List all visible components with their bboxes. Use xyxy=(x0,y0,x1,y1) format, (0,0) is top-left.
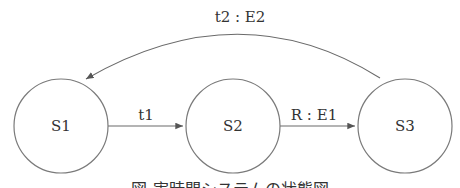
transition-s3-s1 xyxy=(86,34,380,79)
transition-label-t2-e2: t2 : E2 xyxy=(215,8,266,26)
state-label-s3: S3 xyxy=(395,117,415,135)
transition-label-t1: t1 xyxy=(138,106,154,124)
transition-label-r-e1: R : E1 xyxy=(291,106,337,124)
state-label-s1: S1 xyxy=(51,117,71,135)
state-label-s2: S2 xyxy=(223,117,243,135)
figure-caption: 図 実時間システムの状態図 xyxy=(0,176,460,188)
state-diagram: S1 S2 S3 t1 R : E1 t2 : E2 xyxy=(0,0,460,188)
